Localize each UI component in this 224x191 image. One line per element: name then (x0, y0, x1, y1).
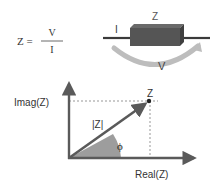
impedance-component: I Z V (103, 11, 210, 72)
phase-angle-wedge (69, 134, 121, 158)
magnitude-label: |Z| (92, 119, 103, 130)
current-label: I (115, 24, 118, 35)
box-top-face (130, 24, 184, 28)
formula-numerator: V (48, 27, 56, 38)
formula-lhs: Z = (17, 35, 33, 47)
point-label: Z (147, 88, 153, 99)
voltage-label: V (158, 60, 166, 72)
box-front-face (130, 28, 180, 46)
imag-axis-label: Imag(Z) (14, 97, 49, 108)
phase-angle-label: ϕ (117, 140, 123, 152)
phasor-diagram: Imag(Z) Real(Z) Z |Z| ϕ (14, 84, 194, 180)
impedance-label: Z (152, 11, 158, 22)
formula-denominator: I (50, 44, 53, 55)
impedance-diagram: Z = V I I Z V Imag(Z) (0, 0, 224, 191)
impedance-formula: Z = V I (17, 27, 63, 55)
voltage-arc (114, 46, 198, 65)
real-axis-label: Real(Z) (135, 169, 168, 180)
impedance-point (147, 99, 151, 103)
